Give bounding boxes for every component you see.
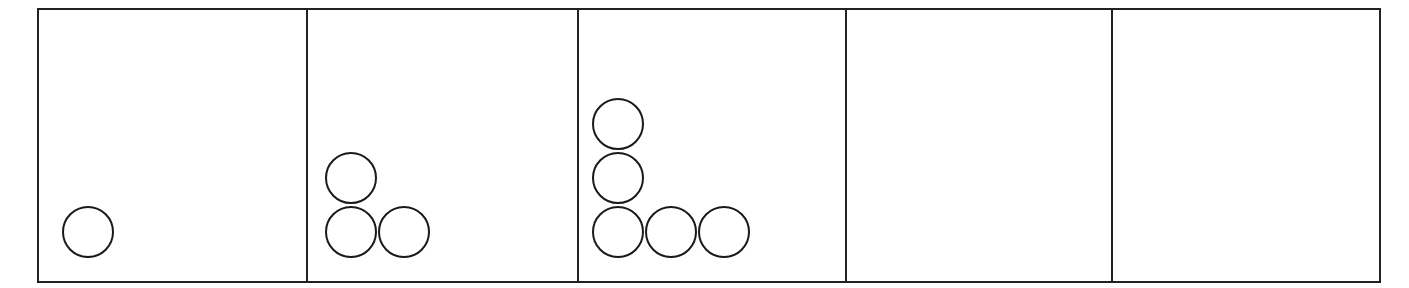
panel-2: [308, 10, 579, 281]
circle: [592, 152, 644, 204]
circle: [698, 206, 750, 258]
circle: [592, 98, 644, 150]
circle: [592, 206, 644, 258]
panel-1: [39, 10, 308, 281]
panel-4: [847, 10, 1113, 281]
circle: [62, 206, 114, 258]
circle: [378, 206, 430, 258]
circle: [325, 152, 377, 204]
panel-3: [579, 10, 847, 281]
pattern-strip: [37, 8, 1381, 283]
circle: [645, 206, 697, 258]
panel-5: [1113, 10, 1381, 281]
circle: [325, 206, 377, 258]
